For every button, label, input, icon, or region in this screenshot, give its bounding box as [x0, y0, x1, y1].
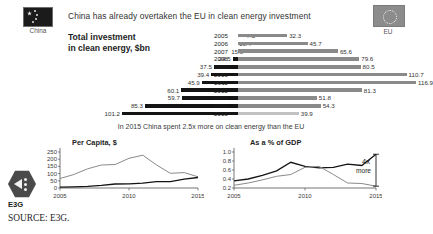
eu-bar [238, 49, 338, 53]
y-tick-label: 0.2 [223, 185, 232, 191]
table-row: 10.4200645.7 [60, 40, 422, 47]
china-flag-label: China [20, 27, 56, 34]
year-label: 2014 [208, 102, 234, 109]
y-tick-label: 0 [54, 185, 58, 191]
eu-bar [238, 34, 287, 38]
y-tick-label: 1.0 [223, 149, 232, 155]
annotation-more: more [356, 167, 371, 174]
year-label: 2006 [208, 40, 234, 47]
axis-lines [60, 148, 198, 188]
line-chart-gdp-share: As a % of GDP 0.20.40.60.81.020052010201… [212, 140, 382, 202]
eu-value-label: 79.6 [361, 55, 373, 62]
series-line-eu [234, 166, 376, 186]
x-tick-label: 2005 [53, 193, 67, 199]
series-line-china [60, 178, 198, 188]
tornado-bar-chart: 7.5200532.310.4200645.715.8200765.624.52… [60, 32, 422, 118]
year-label: 2009 [208, 63, 234, 70]
page-title: China has already overtaken the EU in cl… [68, 11, 311, 21]
eu-bar [238, 42, 308, 46]
table-row: 15.8200765.6 [60, 48, 422, 55]
eu-bar [238, 88, 362, 92]
eu-value-label: 110.7 [409, 71, 424, 78]
table-row: 7.5200532.3 [60, 32, 422, 39]
eu-value-label: 39.9 [301, 110, 313, 117]
eu-value-label: 54.3 [323, 102, 335, 109]
china-flag-icon [23, 7, 53, 27]
eu-flag-icon [373, 5, 405, 27]
y-tick-label: 0.6 [223, 167, 232, 173]
line-chart-per-capita: Per Capita, $ 05010015020025020052010201… [34, 140, 204, 202]
eu-value-label: 116.9 [418, 79, 433, 86]
annotation-multiplier: 4x [362, 157, 370, 166]
year-label: 2008 [208, 55, 234, 62]
eu-value-label: 65.6 [340, 48, 352, 55]
x-tick-label: 2010 [122, 193, 136, 199]
eu-bar [238, 57, 359, 61]
eu-bar [238, 96, 317, 100]
y-tick-label: 150 [47, 163, 58, 169]
eu-value-label: 81.3 [364, 87, 376, 94]
table-row: 24.5200879.6 [60, 55, 422, 62]
gap-bracket [373, 154, 379, 186]
eu-bar [238, 104, 321, 108]
year-label: 2011 [208, 79, 234, 86]
y-tick-label: 50 [50, 178, 57, 184]
series-line-eu [60, 155, 198, 178]
eu-value-label: 45.7 [310, 40, 322, 47]
table-row: 60.1201281.3 [60, 87, 422, 94]
x-tick-label: 2015 [191, 193, 204, 199]
y-tick-label: 0.4 [223, 176, 232, 182]
x-tick-label: 2015 [369, 193, 382, 199]
table-row: 101.2201539.9 [60, 110, 422, 117]
y-tick-label: 100 [47, 171, 58, 177]
eu-value-label: 51.8 [319, 94, 331, 101]
eu-value-label: 80.5 [363, 63, 375, 70]
x-tick-label: 2005 [227, 193, 241, 199]
table-row: 59.7201351.8 [60, 94, 422, 101]
year-label: 2012 [208, 87, 234, 94]
eu-bar [238, 112, 299, 116]
e3g-hex-logo-icon [8, 170, 36, 198]
table-row: 39.42010110.7 [60, 71, 422, 78]
y-tick-label: 0.8 [223, 158, 232, 164]
y-tick-label: 200 [47, 156, 58, 162]
bar-chart-caption: In 2015 China spent 2.5x more on clean e… [0, 123, 422, 130]
china-value-label: 45.9 [188, 79, 200, 86]
eu-bar [238, 73, 407, 77]
table-row: 45.92011116.9 [60, 79, 422, 86]
line-chart-canvas: 0.20.40.60.81.02005201020154xmore [212, 140, 382, 202]
china-value-label: 59.7 [168, 94, 180, 101]
china-value-label: 101.2 [105, 110, 120, 117]
x-tick-label: 2010 [298, 193, 312, 199]
eu-value-label: 32.3 [289, 32, 301, 39]
eu-bar [238, 65, 361, 69]
year-label: 2005 [208, 32, 234, 39]
line-chart-canvas: 050100150200250200520102015 [34, 140, 204, 202]
china-value-label: 60.1 [167, 87, 179, 94]
china-value-label: 85.3 [131, 102, 143, 109]
eu-bar [238, 81, 416, 85]
year-label: 2010 [208, 71, 234, 78]
source-note: SOURCE: E3G. [8, 213, 69, 223]
y-tick-label: 250 [47, 149, 58, 155]
year-label: 2007 [208, 48, 234, 55]
table-row: 37.5200980.5 [60, 63, 422, 70]
year-label: 2015 [208, 110, 234, 117]
axis-lines [234, 148, 376, 188]
year-label: 2013 [208, 94, 234, 101]
logo-label: E3G [8, 200, 23, 209]
table-row: 85.3201454.3 [60, 102, 422, 109]
